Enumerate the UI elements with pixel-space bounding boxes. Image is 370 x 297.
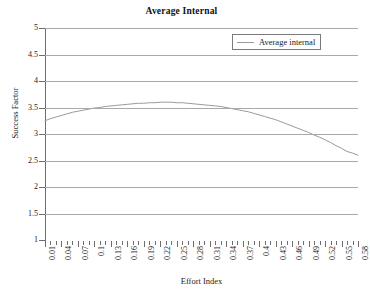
x-axis-tick bbox=[67, 241, 68, 245]
x-axis-tick-label: 0.49 bbox=[313, 246, 321, 260]
y-axis-tick bbox=[39, 55, 45, 56]
x-axis-tick bbox=[298, 241, 299, 245]
x-axis-tick bbox=[210, 241, 211, 247]
x-axis-tick bbox=[215, 241, 216, 245]
x-axis-tick-label: 0.58 bbox=[362, 246, 370, 260]
gridline bbox=[45, 161, 358, 162]
x-axis-tick bbox=[133, 241, 134, 245]
y-axis-tick-label: 1 bbox=[4, 236, 38, 244]
plot-area bbox=[45, 28, 358, 240]
x-axis-tick bbox=[50, 241, 51, 245]
gridline bbox=[45, 28, 358, 29]
x-axis-tick bbox=[122, 241, 123, 245]
x-axis-tick bbox=[193, 241, 194, 247]
x-axis-tick bbox=[177, 241, 178, 247]
x-axis-tick bbox=[149, 241, 150, 245]
x-axis-tick bbox=[303, 241, 304, 245]
x-axis-tick bbox=[100, 241, 101, 245]
x-axis-tick bbox=[342, 241, 343, 247]
gridline bbox=[45, 187, 358, 188]
x-axis-tick bbox=[243, 241, 244, 247]
x-axis-tick-label: 0.46 bbox=[296, 246, 304, 260]
x-axis-tick bbox=[72, 241, 73, 245]
x-axis-tick bbox=[204, 241, 205, 245]
x-axis-tick-label: 0.31 bbox=[214, 246, 222, 260]
x-axis-tick-label: 0.04 bbox=[65, 246, 73, 260]
x-axis-tick bbox=[171, 241, 172, 245]
x-axis-tick bbox=[232, 241, 233, 245]
y-axis-tick-label: 2 bbox=[4, 183, 38, 191]
x-axis-tick bbox=[254, 241, 255, 245]
gridline bbox=[45, 108, 358, 109]
x-axis-tick bbox=[89, 241, 90, 245]
x-axis-tick bbox=[331, 241, 332, 245]
x-axis-tick bbox=[160, 241, 161, 247]
x-axis-tick-label: 0.43 bbox=[280, 246, 288, 260]
x-axis-tick bbox=[199, 241, 200, 245]
x-axis-tick bbox=[281, 241, 282, 245]
x-axis-tick bbox=[276, 241, 277, 247]
y-axis-tick bbox=[39, 187, 45, 188]
x-axis-tick bbox=[358, 241, 359, 247]
x-axis-tick-label: 0.19 bbox=[148, 246, 156, 260]
x-axis-tick bbox=[144, 241, 145, 247]
y-axis-tick bbox=[39, 28, 45, 29]
y-axis-tick bbox=[39, 161, 45, 162]
x-axis-tick bbox=[105, 241, 106, 245]
x-axis-tick-label: 0.52 bbox=[329, 246, 337, 260]
x-axis-tick bbox=[347, 241, 348, 245]
x-axis-tick bbox=[78, 241, 79, 247]
x-axis-tick-label: 0.22 bbox=[164, 246, 172, 260]
x-axis-tick-label: 0.34 bbox=[230, 246, 238, 260]
x-axis-tick bbox=[94, 241, 95, 247]
y-axis-tick bbox=[39, 108, 45, 109]
x-axis-tick bbox=[270, 241, 271, 245]
x-axis-tick bbox=[45, 241, 46, 247]
x-axis-tick-label: 0.13 bbox=[115, 246, 123, 260]
gridline bbox=[45, 214, 358, 215]
x-axis-tick bbox=[127, 241, 128, 247]
x-axis-title: Effort Index bbox=[45, 276, 358, 286]
chart-legend: Average internal bbox=[232, 34, 321, 50]
x-axis-tick bbox=[116, 241, 117, 245]
x-axis-tick bbox=[248, 241, 249, 245]
y-axis-tick-label: 5 bbox=[4, 24, 38, 32]
x-axis-tick-label: 0.28 bbox=[197, 246, 205, 260]
x-axis-tick bbox=[265, 241, 266, 245]
x-axis-tick bbox=[292, 241, 293, 247]
x-axis-tick bbox=[325, 241, 326, 247]
x-axis-tick bbox=[56, 241, 57, 245]
x-axis-tick bbox=[182, 241, 183, 245]
x-axis-tick-label: 0.37 bbox=[247, 246, 255, 260]
x-axis-tick-label: 0.25 bbox=[181, 246, 189, 260]
x-axis-tick bbox=[188, 241, 189, 245]
x-axis-tick bbox=[155, 241, 156, 245]
x-axis-tick bbox=[83, 241, 84, 245]
x-axis-tick-label: 0.55 bbox=[346, 246, 354, 260]
x-axis-tick bbox=[237, 241, 238, 245]
x-axis-tick bbox=[287, 241, 288, 245]
x-axis-tick bbox=[259, 241, 260, 247]
x-axis-tick-label: 0.1 bbox=[98, 246, 106, 256]
x-axis-tick bbox=[336, 241, 337, 245]
y-axis-tick-label: 1.5 bbox=[4, 210, 38, 218]
gridline bbox=[45, 134, 358, 135]
y-axis-title: Success Factor bbox=[10, 58, 20, 168]
x-axis-tick-label: 0.07 bbox=[82, 246, 90, 260]
x-axis-tick bbox=[226, 241, 227, 247]
y-axis-tick bbox=[39, 134, 45, 135]
x-axis-tick bbox=[320, 241, 321, 245]
x-axis-tick bbox=[166, 241, 167, 245]
x-axis-tick-label: 0.01 bbox=[49, 246, 57, 260]
x-axis-tick-label: 0.4 bbox=[263, 246, 271, 256]
x-axis-tick bbox=[138, 241, 139, 245]
x-axis-tick bbox=[111, 241, 112, 247]
y-axis-tick bbox=[39, 81, 45, 82]
x-axis-tick bbox=[61, 241, 62, 247]
x-axis-tick bbox=[353, 241, 354, 245]
gridline bbox=[45, 81, 358, 82]
y-axis-tick bbox=[39, 214, 45, 215]
x-axis-tick bbox=[309, 241, 310, 247]
chart-title: Average Internal bbox=[0, 6, 363, 16]
